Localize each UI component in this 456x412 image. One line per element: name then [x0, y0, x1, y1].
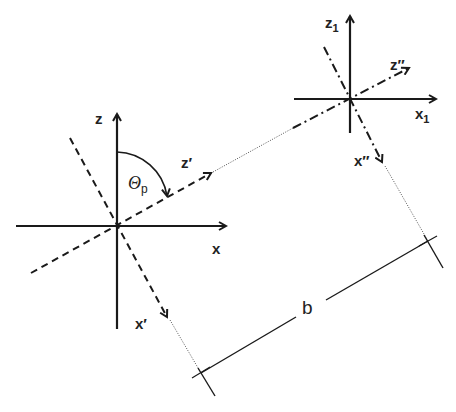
dimension-line-upper — [326, 241, 428, 300]
z-prime-extension-dotted — [213, 128, 293, 172]
z-axis-label: z — [95, 110, 103, 127]
dimension-b: b — [192, 235, 443, 396]
x1-axis-label: x1 — [415, 105, 429, 125]
shifted-frame: x1 z1 — [294, 14, 436, 133]
original-frame: x z — [16, 110, 226, 329]
frame-transformation-diagram: x z z′ x′ Θp x1 z1 z″ x″ — [0, 0, 456, 412]
z-prime-label: z′ — [181, 154, 193, 171]
dimension-label-b: b — [302, 297, 313, 318]
dimension-line-lower — [201, 317, 296, 373]
tick-right — [419, 236, 437, 246]
x-axis-label: x — [212, 240, 221, 257]
extension-line-right — [424, 235, 443, 268]
angle-subscript: p — [141, 182, 148, 196]
x-double-prime-axis — [324, 47, 382, 162]
angle-label: Θp — [128, 173, 148, 196]
x-prime-axis — [70, 138, 167, 317]
angle-symbol: Θ — [128, 173, 141, 193]
x-prime-extension-dotted — [170, 320, 201, 373]
rotated-frame: z′ x′ — [31, 138, 211, 332]
z-prime-axis — [31, 173, 211, 273]
tick-left — [192, 367, 210, 378]
x-prime-label: x′ — [135, 315, 147, 332]
angle-theta-p: Θp — [117, 152, 167, 196]
x-double-prime-label: x″ — [354, 152, 370, 169]
z1-axis-label: z1 — [325, 14, 339, 34]
z-double-prime-label: z″ — [390, 56, 405, 73]
x-double-prime-extension-dotted — [385, 166, 428, 241]
